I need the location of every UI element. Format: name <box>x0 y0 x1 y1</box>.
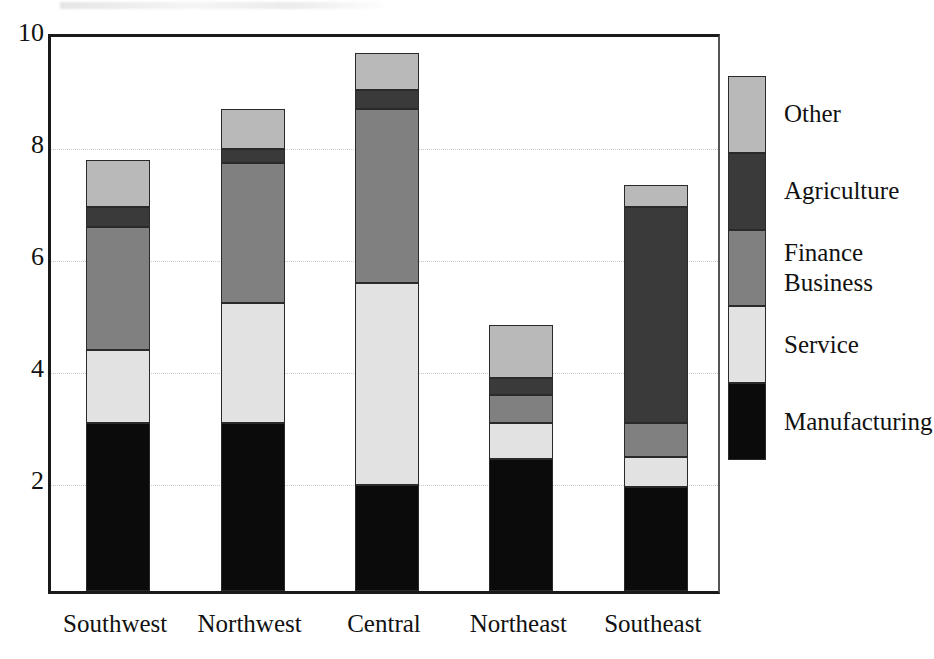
bar-southwest[interactable] <box>86 160 150 591</box>
bar-segment-manufacturing[interactable] <box>86 423 150 591</box>
legend-label-manufacturing: Manufacturing <box>784 407 933 437</box>
y-axis-tick-label: 4 <box>4 356 44 382</box>
bar-segment-finance-business[interactable] <box>489 395 553 423</box>
bar-segment-agriculture[interactable] <box>355 90 419 110</box>
bar-segment-other[interactable] <box>624 185 688 207</box>
stacked-bar-chart: 246810 SouthwestNorthwestCentralNortheas… <box>0 0 934 659</box>
scan-artifact <box>60 2 390 9</box>
x-axis-labels: SouthwestNorthwestCentralNortheastSouthe… <box>48 604 720 650</box>
plot-area <box>48 34 720 594</box>
bar-segment-agriculture[interactable] <box>86 207 150 227</box>
x-axis-label-southeast: Southeast <box>586 604 720 644</box>
bar-segment-manufacturing[interactable] <box>624 487 688 591</box>
legend-swatch-service[interactable] <box>728 306 766 383</box>
legend-swatch-agriculture[interactable] <box>728 153 766 230</box>
bar-segment-service[interactable] <box>221 303 285 423</box>
bar-segment-manufacturing[interactable] <box>221 423 285 591</box>
bar-segment-finance-business[interactable] <box>624 423 688 457</box>
bar-southeast[interactable] <box>624 185 688 591</box>
x-axis-label-northeast: Northeast <box>451 604 585 644</box>
bar-segment-finance-business[interactable] <box>86 227 150 350</box>
legend-swatch-finance-business[interactable] <box>728 230 766 307</box>
y-axis: 246810 <box>0 0 44 628</box>
bar-segment-other[interactable] <box>355 53 419 89</box>
bar-segment-service[interactable] <box>624 457 688 488</box>
bar-segment-service[interactable] <box>86 350 150 423</box>
bar-group <box>51 37 718 591</box>
bar-segment-finance-business[interactable] <box>221 163 285 303</box>
bar-segment-agriculture[interactable] <box>624 207 688 423</box>
bar-segment-other[interactable] <box>221 109 285 148</box>
bar-northwest[interactable] <box>221 109 285 591</box>
legend-swatch-manufacturing[interactable] <box>728 383 766 460</box>
x-axis-label-central: Central <box>317 604 451 644</box>
bar-segment-service[interactable] <box>489 423 553 459</box>
legend-swatch-other[interactable] <box>728 76 766 153</box>
y-axis-tick-label: 10 <box>4 20 44 46</box>
bar-segment-agriculture[interactable] <box>221 149 285 163</box>
bar-segment-finance-business[interactable] <box>355 109 419 283</box>
y-axis-tick-label: 8 <box>4 132 44 158</box>
y-axis-tick-label: 6 <box>4 244 44 270</box>
x-axis-label-northwest: Northwest <box>182 604 316 644</box>
legend-label-other: Other <box>784 99 841 129</box>
bar-segment-agriculture[interactable] <box>489 378 553 395</box>
bar-segment-manufacturing[interactable] <box>489 459 553 591</box>
legend-label-service: Service <box>784 330 859 360</box>
y-axis-tick-label: 2 <box>4 468 44 494</box>
legend-color-strip <box>728 76 766 460</box>
bar-segment-manufacturing[interactable] <box>355 485 419 591</box>
legend-label-agriculture: Agriculture <box>784 176 899 206</box>
bar-central[interactable] <box>355 53 419 591</box>
x-axis-label-southwest: Southwest <box>48 604 182 644</box>
bar-northeast[interactable] <box>489 325 553 591</box>
bar-segment-other[interactable] <box>86 160 150 208</box>
chart-legend: OtherAgricultureFinance BusinessServiceM… <box>728 76 928 460</box>
bar-segment-other[interactable] <box>489 325 553 378</box>
bar-segment-service[interactable] <box>355 283 419 485</box>
legend-label-finance-business: Finance Business <box>784 238 873 298</box>
